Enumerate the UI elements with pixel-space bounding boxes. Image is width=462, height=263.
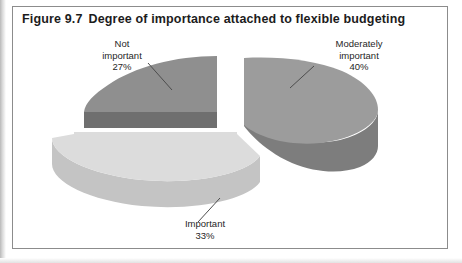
pie-label-important-value: 33% — [162, 230, 248, 242]
pie-slice-important[interactable] — [52, 132, 260, 207]
pie-label-moderately-important-value: 40% — [316, 61, 402, 73]
pie-label-important-line1: Important — [162, 218, 248, 230]
pie-label-not-important-line1: Not — [84, 38, 160, 50]
scan-edge-left — [0, 0, 6, 263]
pie-label-moderately-important-line2: important — [316, 50, 402, 62]
pie-label-not-important-line2: important — [84, 50, 160, 62]
pie-slice-moderately-important[interactable] — [244, 58, 378, 172]
figure-root: Figure 9.7Degree of importance attached … — [0, 0, 462, 263]
pie-label-moderately-important: Moderately important 40% — [316, 38, 402, 73]
pie-label-not-important: Not important 27% — [84, 38, 160, 73]
scan-edge-bottom — [0, 258, 462, 263]
pie-label-important: Important 33% — [162, 218, 248, 241]
pie-chart-plot-area: Not important 27% Moderately important 4… — [12, 6, 448, 249]
pie-label-not-important-value: 27% — [84, 61, 160, 73]
pie-label-moderately-important-line1: Moderately — [316, 38, 402, 50]
